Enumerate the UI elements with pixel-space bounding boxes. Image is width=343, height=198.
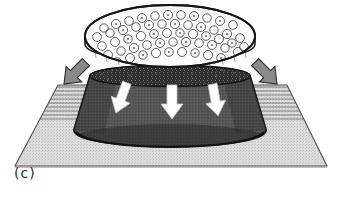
figure-panel-c: (c) [0, 0, 343, 198]
cellular-disc [85, 5, 255, 69]
substrate-front-edge [15, 166, 327, 168]
panel-label: (c) [14, 166, 36, 180]
figure-illustration [0, 0, 343, 198]
dome-top-rim [90, 66, 250, 87]
